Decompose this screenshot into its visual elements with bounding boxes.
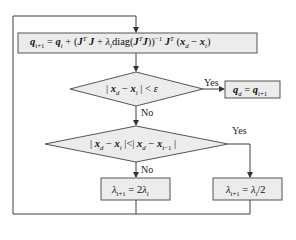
no-label-2: No bbox=[141, 165, 153, 175]
update-formula: qi+1 = qi + (JT J + λidiag(JTJ))−1 JT (x… bbox=[30, 37, 210, 48]
sup-T: T bbox=[170, 35, 174, 42]
epsilon-symbol: ε bbox=[154, 83, 158, 94]
sub-d: d bbox=[185, 42, 188, 49]
J-symbol: J bbox=[89, 36, 94, 47]
done-formula: qd = qi+1 bbox=[233, 85, 267, 96]
sub-i1: i+1 bbox=[117, 190, 126, 197]
sub-i: i bbox=[61, 42, 63, 49]
sub-i-minus-1: i−1 bbox=[162, 144, 171, 151]
sub-d: d bbox=[238, 90, 241, 97]
decrease-lambda-formula: λi+1 = λi/2 bbox=[226, 185, 266, 196]
arrow-check2-yes bbox=[228, 144, 250, 177]
convergence-condition: | xd − xi | < ε bbox=[106, 84, 158, 95]
divide-two: /2 bbox=[257, 184, 265, 195]
increase-lambda-formula: λi+1 = 2λi bbox=[112, 185, 149, 196]
sub-d: d bbox=[116, 89, 119, 96]
no-label-1: No bbox=[141, 108, 153, 118]
yes-label-2: Yes bbox=[232, 126, 247, 136]
diag-text: diag bbox=[112, 36, 130, 47]
sup-inverse: −1 bbox=[155, 35, 162, 42]
sub-i: i bbox=[205, 42, 207, 49]
sub-d: d bbox=[100, 144, 103, 151]
sub-i1: i+1 bbox=[258, 90, 267, 97]
sub-i: i bbox=[147, 190, 149, 197]
error-decrease-condition: | xd − xi |<| xd − xi−1 | bbox=[90, 139, 176, 150]
sub-i: i bbox=[120, 144, 122, 151]
sup-T: T bbox=[83, 35, 87, 42]
sub-i1: i+1 bbox=[35, 42, 44, 49]
yes-label-1: Yes bbox=[204, 78, 219, 88]
J-symbol: J bbox=[143, 36, 148, 47]
sub-i1: i+1 bbox=[231, 190, 240, 197]
sub-i: i bbox=[136, 89, 138, 96]
sub-d: d bbox=[142, 144, 145, 151]
